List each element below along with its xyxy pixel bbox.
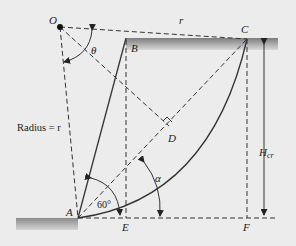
label-O: O [49, 14, 57, 26]
bottom-ground-surface [16, 218, 78, 230]
label-A: A [65, 206, 73, 218]
label-F: F [242, 221, 250, 233]
top-ground-surface [126, 38, 278, 50]
label-alpha: α [155, 172, 161, 184]
label-E: E [121, 221, 129, 233]
label-radius: Radius = r [17, 122, 61, 133]
label-D: D [167, 132, 176, 144]
center-point-O [57, 24, 63, 30]
line-OC [60, 27, 247, 39]
label-60-degrees: 60° [97, 199, 111, 210]
label-r: r [179, 14, 184, 26]
label-height: Hcr [258, 146, 275, 160]
slope-stability-diagram: O B C D A E F r Radius = r θ 60° α Hcr [0, 0, 296, 246]
label-theta: θ [91, 44, 97, 56]
line-OA [60, 27, 78, 218]
diagram-canvas: O B C D A E F r Radius = r θ 60° α Hcr [0, 0, 296, 246]
label-B: B [131, 42, 138, 54]
angle-alpha-arc [144, 162, 160, 216]
label-height-sub: cr [267, 151, 275, 160]
label-C: C [241, 23, 249, 35]
